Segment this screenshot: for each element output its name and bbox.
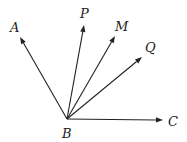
rays-group (20, 25, 163, 123)
arrowhead-icon (109, 36, 115, 43)
arrowhead-icon (156, 117, 163, 122)
label-C: C (168, 114, 178, 129)
label-A: A (9, 20, 19, 35)
ray-BQ (67, 61, 137, 119)
label-M: M (114, 19, 129, 34)
label-B-vertex: B (61, 126, 72, 141)
label-P: P (79, 6, 89, 21)
ray-BA (23, 43, 67, 119)
ray-BC (67, 119, 156, 120)
arrowhead-icon (80, 25, 85, 32)
label-Q: Q (145, 40, 156, 55)
arrowhead-icon (20, 37, 26, 44)
angle-diagram: A P M Q C B (0, 0, 187, 142)
